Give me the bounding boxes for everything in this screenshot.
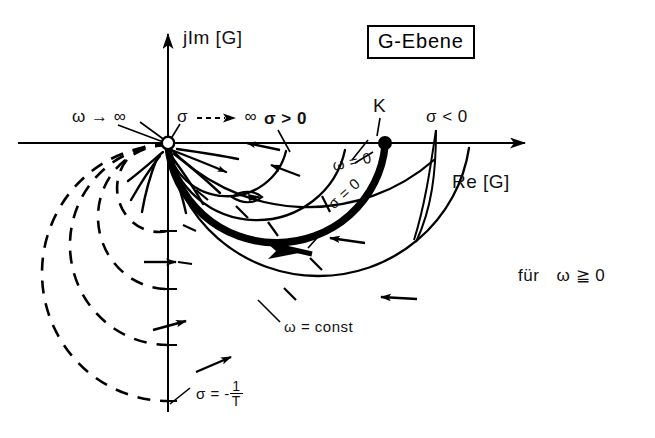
label-condition-symbol: ω ≧ 0 bbox=[557, 266, 606, 285]
fraction-one-over-t: 1 T bbox=[230, 379, 243, 409]
label-sigma-to-infinity: σ ∞ bbox=[177, 108, 257, 125]
fraction-numerator: 1 bbox=[230, 379, 243, 393]
label-sigma-minus-lead: σ = - bbox=[196, 385, 230, 402]
sigma-zero-direction-arrow bbox=[268, 244, 312, 259]
label-sigma-to-infinity-suffix: ∞ bbox=[244, 107, 257, 126]
dashed-arrow-icon bbox=[195, 112, 237, 124]
origin-fan-dashed-left bbox=[128, 152, 163, 212]
figure-canvas: G-Ebene jIm [G] Re [G] ω → ∞ σ ∞ σ > 0 K… bbox=[0, 0, 655, 438]
label-omega-to-infinity: ω → ∞ bbox=[72, 108, 126, 125]
label-condition-note: für ω ≧ 0 bbox=[518, 267, 605, 284]
label-sigma-less-zero: σ < 0 bbox=[426, 108, 468, 125]
axis-label-imaginary: jIm [G] bbox=[183, 28, 242, 47]
label-point-k: K bbox=[373, 96, 386, 115]
omega-const-direction-arrows bbox=[144, 262, 231, 372]
axis-label-real: Re [G] bbox=[452, 172, 510, 191]
label-sigma-greater-zero: σ > 0 bbox=[264, 110, 307, 127]
label-omega-const: ω = const bbox=[284, 319, 353, 334]
point-k-marker bbox=[378, 136, 392, 150]
label-sigma-equals-minus-one-over-t: σ = - 1 T bbox=[196, 380, 243, 410]
origin-marker bbox=[162, 137, 174, 149]
fraction-denominator: T bbox=[230, 393, 243, 408]
label-sigma-to-infinity-prefix: σ bbox=[177, 107, 188, 126]
plane-title-box: G-Ebene bbox=[367, 25, 475, 59]
nyquist-diagram-svg bbox=[0, 0, 655, 438]
label-condition-prefix: für bbox=[518, 266, 539, 285]
